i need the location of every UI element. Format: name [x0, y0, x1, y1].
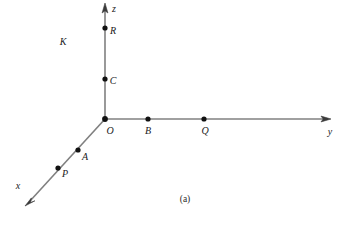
y-axis-label: y: [328, 127, 332, 137]
axes-drawing: [0, 0, 347, 226]
x-axis-arrowhead: [25, 198, 35, 206]
figure-3d-axes: z y x R C O B Q A P K (a): [0, 0, 347, 226]
point-A-dot: [75, 147, 80, 152]
x-axis-label: x: [16, 181, 20, 191]
figure-caption: (a): [180, 195, 191, 205]
point-Q-label: Q: [201, 126, 208, 136]
point-R-label: R: [110, 26, 116, 36]
z-axis-label: z: [112, 4, 116, 14]
point-C-dot: [102, 76, 107, 81]
point-A-label: A: [82, 152, 88, 162]
point-O-label: O: [106, 126, 113, 136]
region-K-label: K: [60, 37, 67, 47]
point-B-dot: [145, 116, 150, 121]
point-C-label: C: [110, 76, 117, 86]
point-P-dot: [55, 165, 60, 170]
point-B-label: B: [145, 126, 151, 136]
marked-points-group: [55, 25, 206, 170]
axis-lines-group: [30, 7, 325, 201]
point-P-label: P: [62, 169, 68, 179]
x-axis-line: [30, 119, 105, 201]
point-O-dot: [102, 116, 108, 122]
point-R-dot: [102, 25, 107, 30]
axis-arrowheads-group: [25, 3, 331, 206]
point-Q-dot: [201, 116, 206, 121]
